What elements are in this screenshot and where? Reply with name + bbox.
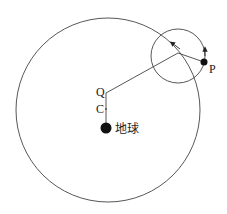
- label-earth: 地球: [115, 122, 139, 136]
- label-p: P: [209, 62, 216, 76]
- epicycle-radius-line: [178, 53, 204, 62]
- deferent-circle: [16, 18, 200, 202]
- planet-p-dot: [201, 59, 208, 66]
- epicycle-circle: [151, 29, 205, 83]
- q-to-epicycle-center-line: [106, 53, 178, 93]
- earth-dot: [101, 123, 112, 134]
- label-q: Q: [96, 85, 105, 99]
- label-c: C: [96, 102, 104, 116]
- epicycle-diagram: Q C P 地球: [0, 0, 227, 214]
